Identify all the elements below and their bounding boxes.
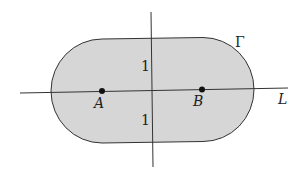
stadium-diagram: A B L Γ 1 1 [0,0,304,179]
label-gamma: Γ [235,34,245,50]
label-distance-bottom: 1 [141,112,150,128]
label-b: B [192,93,203,109]
label-l: L [277,91,287,107]
point-a [99,88,105,94]
label-a: A [92,95,104,111]
point-b [199,87,205,93]
label-distance-top: 1 [141,58,150,74]
